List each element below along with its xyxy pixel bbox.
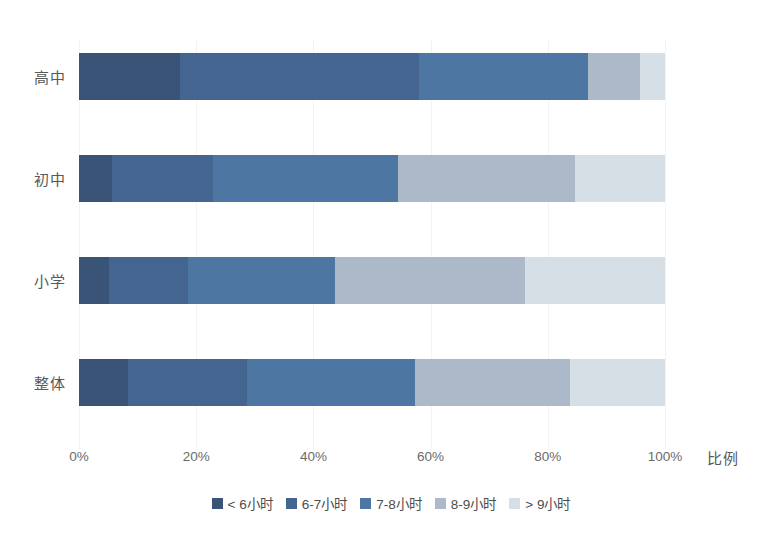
bar-segment[interactable] xyxy=(213,155,398,202)
bar-segment[interactable] xyxy=(112,155,213,202)
bar-segment[interactable] xyxy=(419,53,588,100)
bar-segment[interactable] xyxy=(109,257,188,304)
y-axis-label: 小学 xyxy=(0,270,66,291)
legend-label: 7-8小时 xyxy=(376,493,422,513)
bar-segment[interactable] xyxy=(247,359,415,406)
legend-swatch-icon xyxy=(212,498,223,509)
bar-segment[interactable] xyxy=(415,359,570,406)
x-axis-tick-label: 0% xyxy=(69,449,89,464)
legend-label: > 9小时 xyxy=(525,493,570,513)
legend-swatch-icon xyxy=(360,498,371,509)
bar-row[interactable] xyxy=(79,257,665,304)
bar-segment[interactable] xyxy=(335,257,525,304)
x-axis-tick-label: 40% xyxy=(300,449,327,464)
x-axis-tick-label: 60% xyxy=(417,449,444,464)
bar-segment[interactable] xyxy=(570,359,665,406)
legend-swatch-icon xyxy=(286,498,297,509)
legend-item[interactable]: 6-7小时 xyxy=(286,493,348,513)
bar-segment[interactable] xyxy=(525,257,665,304)
bar-row[interactable] xyxy=(79,53,665,100)
legend-item[interactable]: 8-9小时 xyxy=(435,493,497,513)
y-axis-label: 初中 xyxy=(0,168,66,189)
legend-swatch-icon xyxy=(435,498,446,509)
legend-label: 8-9小时 xyxy=(451,493,497,513)
bar-segment[interactable] xyxy=(79,359,128,406)
x-axis-tick-label: 100% xyxy=(648,449,683,464)
legend-swatch-icon xyxy=(509,498,520,509)
bar-segment[interactable] xyxy=(180,53,419,100)
bar-segment[interactable] xyxy=(79,257,109,304)
plot-area xyxy=(79,40,665,450)
bar-segment[interactable] xyxy=(128,359,247,406)
y-axis-label: 高中 xyxy=(0,66,66,87)
bar-segment[interactable] xyxy=(188,257,335,304)
bar-row[interactable] xyxy=(79,155,665,202)
legend-label: < 6小时 xyxy=(228,493,273,513)
legend: < 6小时6-7小时7-8小时8-9小时> 9小时 xyxy=(0,493,782,513)
stacked-bar-chart: 高中初中小学整体 0%20%40%60%80%100% 比例 < 6小时6-7小… xyxy=(0,0,782,553)
bar-row[interactable] xyxy=(79,359,665,406)
y-axis-label: 整体 xyxy=(0,372,66,393)
legend-item[interactable]: 7-8小时 xyxy=(360,493,422,513)
bar-segment[interactable] xyxy=(398,155,575,202)
bar-segment[interactable] xyxy=(640,53,665,100)
bar-segment[interactable] xyxy=(575,155,665,202)
x-axis-tick-label: 80% xyxy=(534,449,561,464)
legend-label: 6-7小时 xyxy=(302,493,348,513)
legend-item[interactable]: > 9小时 xyxy=(509,493,570,513)
bar-segment[interactable] xyxy=(79,155,112,202)
x-axis-title: 比例 xyxy=(707,447,739,468)
x-axis-tick-label: 20% xyxy=(183,449,210,464)
legend-item[interactable]: < 6小时 xyxy=(212,493,273,513)
bar-segment[interactable] xyxy=(588,53,640,100)
bar-segment[interactable] xyxy=(79,53,180,100)
gridline-100% xyxy=(665,40,666,450)
